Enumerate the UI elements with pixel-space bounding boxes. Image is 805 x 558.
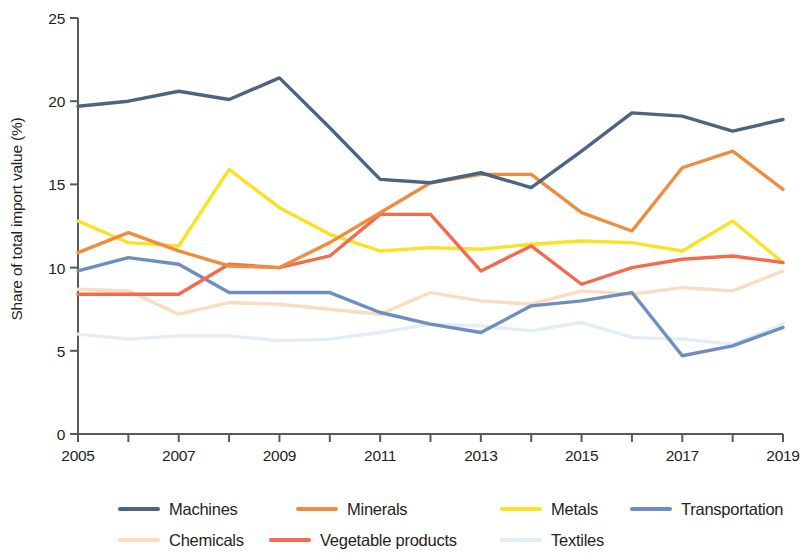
y-axis-tick-label: 10: [48, 260, 65, 277]
legend-item-vegetable-products[interactable]: Vegetable products: [269, 525, 457, 555]
x-axis-tick-label: 2007: [162, 447, 195, 464]
y-axis-tick-label: 25: [48, 10, 65, 27]
x-axis-tick-label: 2017: [666, 447, 699, 464]
legend-label: Metals: [551, 501, 598, 518]
legend-item-chemicals[interactable]: Chemicals: [118, 525, 244, 555]
legend-swatch-icon: [296, 507, 338, 511]
legend-item-transportation[interactable]: Transportation: [630, 494, 783, 524]
legend-swatch-icon: [630, 507, 672, 511]
legend-swatch-icon: [118, 538, 160, 542]
legend-swatch-icon: [269, 538, 311, 542]
y-axis-tick-label: 0: [57, 426, 66, 443]
x-axis-tick-label: 2011: [364, 447, 396, 464]
legend: MachinesMineralsMetalsTransportation Che…: [118, 494, 805, 558]
line-chart: Share of total import value (%) 05101520…: [0, 0, 805, 558]
legend-item-machines[interactable]: Machines: [118, 494, 238, 524]
x-axis-tick-label: 2015: [565, 447, 598, 464]
legend-label: Vegetable products: [320, 532, 457, 549]
legend-label: Transportation: [681, 501, 783, 518]
legend-swatch-icon: [500, 538, 542, 542]
x-axis-tick-label: 2019: [766, 447, 799, 464]
legend-row-1: MachinesMineralsMetalsTransportation: [118, 494, 805, 524]
legend-item-minerals[interactable]: Minerals: [296, 494, 407, 524]
series-line-vegetable-products: [78, 214, 783, 294]
y-axis-tick-label: 15: [48, 176, 65, 193]
legend-label: Minerals: [347, 501, 407, 518]
series-line-machines: [78, 78, 783, 188]
legend-row-2: ChemicalsVegetable productsTextiles: [118, 525, 805, 555]
legend-swatch-icon: [118, 507, 160, 511]
series-line-transportation: [78, 258, 783, 356]
legend-item-metals[interactable]: Metals: [500, 494, 598, 524]
plot-area: 0510152025200520072009201120132015201720…: [0, 0, 805, 492]
y-axis-tick-label: 20: [48, 93, 65, 110]
y-axis-tick-label: 5: [57, 343, 65, 360]
legend-label: Chemicals: [169, 532, 244, 549]
legend-swatch-icon: [500, 507, 542, 511]
legend-label: Textiles: [551, 532, 604, 549]
x-axis-tick-label: 2005: [61, 447, 94, 464]
legend-item-textiles[interactable]: Textiles: [500, 525, 604, 555]
x-axis-tick-label: 2009: [263, 447, 296, 464]
legend-label: Machines: [169, 501, 238, 518]
x-axis-tick-label: 2013: [464, 447, 497, 464]
